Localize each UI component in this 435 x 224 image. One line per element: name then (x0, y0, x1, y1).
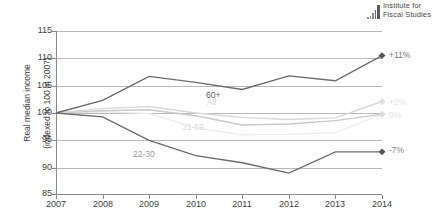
y-axis-title-line-1: Real median income (22, 28, 32, 178)
x-tick-label-2011: 2011 (222, 199, 262, 209)
series-all (56, 98, 385, 119)
y-tick-label-115: 115 (28, 25, 52, 35)
x-tick-label-2012: 2012 (269, 199, 309, 209)
end-annotation-22-30: -7% (389, 145, 404, 155)
logo-text: Institute for Fiscal Studies (383, 2, 431, 19)
bar-chart-logo-icon (367, 2, 380, 19)
y-tick-label-100: 100 (28, 107, 52, 117)
x-tick-label-2013: 2013 (315, 199, 355, 209)
series-label-all: All (207, 97, 216, 107)
series-label-22-30: 22-30 (133, 149, 155, 159)
y-axis-title: Real median income (indexed to 100 in 20… (12, 28, 62, 178)
chart-container: Institute for Fiscal Studies Real median… (0, 0, 435, 224)
series-60plus (56, 52, 385, 113)
series-22-30 (56, 113, 385, 173)
y-tick-label-95: 95 (28, 134, 52, 144)
x-tick-label-2014: 2014 (362, 199, 402, 209)
y-tick-label-90: 90 (28, 162, 52, 172)
series-label-31-59: 31-59 (182, 122, 204, 132)
y-axis-title-line-2: (indexed to 100 in 2007) (42, 28, 52, 178)
x-tick-label-2008: 2008 (83, 199, 123, 209)
end-annotation-all: +2% (389, 97, 406, 107)
series-plot (56, 31, 382, 195)
x-tick-label-2007: 2007 (36, 199, 76, 209)
y-tick-label-105: 105 (28, 80, 52, 90)
y-tick-label-110: 110 (28, 52, 52, 62)
plot-area: 115 110 105 100 95 90 85 2007 2008 2009 … (56, 31, 382, 195)
end-annotation-60plus: +11% (389, 50, 410, 60)
y-tick-label-85: 85 (28, 188, 52, 198)
x-tick-label-2010: 2010 (176, 199, 216, 209)
end-annotation-31-59: 0% (389, 110, 401, 120)
ifs-logo: Institute for Fiscal Studies (367, 2, 431, 19)
x-tick-label-2009: 2009 (129, 199, 169, 209)
logo-line-2: Fiscal Studies (383, 11, 431, 20)
